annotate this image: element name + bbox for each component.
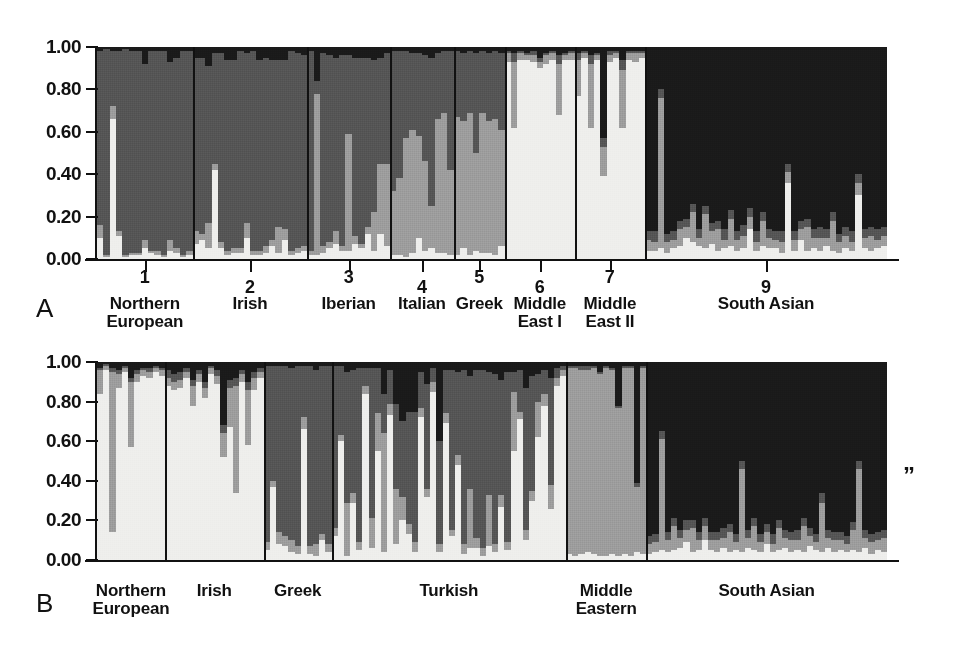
cluster-number: 3 bbox=[344, 267, 354, 288]
group-label: Greek bbox=[456, 295, 503, 313]
ancestry-segment bbox=[881, 47, 887, 227]
cluster-number: 1 bbox=[140, 267, 150, 288]
y-tick-label: 0.40 bbox=[46, 163, 81, 185]
group-label-line: Northern bbox=[93, 582, 170, 600]
group-label: South Asian bbox=[718, 295, 814, 313]
y-tick-label: 0.40 bbox=[46, 470, 81, 492]
group-separator bbox=[390, 47, 392, 259]
group-label: Irish bbox=[197, 582, 232, 600]
panel-a: A 1.000.800.600.400.200.001NorthernEurop… bbox=[0, 0, 957, 340]
group-label-line: Greek bbox=[274, 582, 321, 600]
group-separator bbox=[645, 47, 647, 259]
y-tick-label: 0.20 bbox=[46, 509, 81, 531]
group-separator bbox=[307, 47, 309, 259]
group-label-line: East II bbox=[584, 313, 637, 331]
ancestry-segment bbox=[881, 530, 887, 538]
y-tick-label: 0.00 bbox=[46, 248, 81, 270]
group-label-line: European bbox=[93, 600, 170, 618]
group-label-line: Middle bbox=[513, 295, 566, 313]
group-label-line: Irish bbox=[232, 295, 267, 313]
group-label: Turkish bbox=[419, 582, 478, 600]
group-label-line: Eastern bbox=[576, 600, 637, 618]
x-axis-line bbox=[85, 259, 899, 261]
group-label: Greek bbox=[274, 582, 321, 600]
group-label-line: European bbox=[106, 313, 183, 331]
group-label: MiddleEastern bbox=[576, 582, 637, 619]
group-separator bbox=[165, 362, 167, 560]
group-label: NorthernEuropean bbox=[106, 295, 183, 332]
ancestry-segment bbox=[881, 538, 887, 552]
group-label: NorthernEuropean bbox=[93, 582, 170, 619]
group-label-line: Turkish bbox=[419, 582, 478, 600]
group-label-line: East I bbox=[513, 313, 566, 331]
group-label-line: Northern bbox=[106, 295, 183, 313]
group-label-line: Middle bbox=[576, 582, 637, 600]
group-label: South Asian bbox=[718, 582, 814, 600]
cluster-number: 7 bbox=[605, 267, 615, 288]
panel-a-letter: A bbox=[36, 293, 53, 324]
y-tick-label: 1.00 bbox=[46, 36, 81, 58]
y-tick-label: 1.00 bbox=[46, 351, 81, 373]
cluster-number: 5 bbox=[474, 267, 484, 288]
ancestry-bar bbox=[881, 47, 887, 259]
group-separator bbox=[332, 362, 334, 560]
group-label-line: Iberian bbox=[321, 295, 375, 313]
y-axis-line bbox=[95, 47, 97, 261]
x-tick-mark bbox=[422, 261, 424, 272]
panel-b-plot-area bbox=[97, 362, 887, 560]
x-tick-mark bbox=[766, 261, 768, 272]
group-label: Italian bbox=[398, 295, 446, 313]
group-label: MiddleEast II bbox=[584, 295, 637, 332]
structure-plot-figure: A 1.000.800.600.400.200.001NorthernEurop… bbox=[0, 0, 957, 649]
y-tick-label: 0.60 bbox=[46, 121, 81, 143]
group-label-line: Irish bbox=[197, 582, 232, 600]
panel-b-letter: B bbox=[36, 588, 53, 619]
group-label: Iberian bbox=[321, 295, 375, 313]
x-axis-line bbox=[85, 560, 899, 562]
x-tick-mark bbox=[540, 261, 542, 272]
group-label: Irish bbox=[232, 295, 267, 313]
y-tick-label: 0.80 bbox=[46, 78, 81, 100]
ancestry-bar bbox=[881, 362, 887, 560]
group-label-line: Greek bbox=[456, 295, 503, 313]
x-tick-mark bbox=[250, 261, 252, 272]
group-separator bbox=[193, 47, 195, 259]
group-separator bbox=[575, 47, 577, 259]
group-separator bbox=[566, 362, 568, 560]
group-separator bbox=[454, 47, 456, 259]
scan-artifact-mark: ” bbox=[903, 462, 915, 490]
y-axis-line bbox=[95, 362, 97, 562]
y-tick-label: 0.20 bbox=[46, 206, 81, 228]
group-label-line: Middle bbox=[584, 295, 637, 313]
group-separator bbox=[646, 362, 648, 560]
ancestry-segment bbox=[881, 235, 887, 246]
group-separator bbox=[264, 362, 266, 560]
panel-a-plot-area bbox=[97, 47, 887, 259]
group-label-line: South Asian bbox=[718, 582, 814, 600]
y-tick-label: 0.60 bbox=[46, 430, 81, 452]
y-tick-label: 0.00 bbox=[46, 549, 81, 571]
y-tick-label: 0.80 bbox=[46, 391, 81, 413]
ancestry-segment bbox=[881, 552, 887, 560]
group-label-line: Italian bbox=[398, 295, 446, 313]
ancestry-segment bbox=[881, 227, 887, 236]
ancestry-segment bbox=[881, 362, 887, 530]
panel-b: B 1.000.800.600.400.200.00NorthernEurope… bbox=[0, 340, 957, 649]
ancestry-segment bbox=[881, 246, 887, 259]
group-label: MiddleEast I bbox=[513, 295, 566, 332]
group-label-line: South Asian bbox=[718, 295, 814, 313]
group-separator bbox=[505, 47, 507, 259]
